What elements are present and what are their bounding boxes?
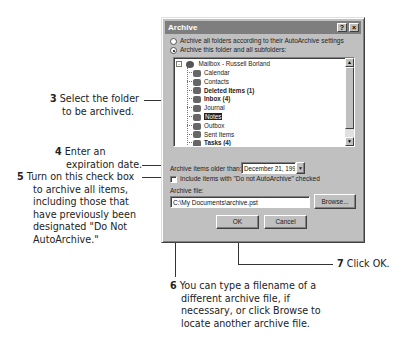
date-dropdown-button[interactable]: ▼ (296, 162, 305, 174)
tree-item[interactable]: Outbox (187, 121, 224, 130)
radio-archive-this-folder[interactable] (170, 47, 177, 54)
tree-item[interactable]: Sent Items (187, 130, 234, 139)
callout-7-line: Click OK. (347, 258, 390, 269)
tree-item[interactable]: Contacts (187, 77, 229, 86)
include-do-not-autoarchive-checkbox[interactable] (170, 176, 177, 183)
browse-button-label: Browse... (321, 198, 348, 205)
scroll-thumb[interactable] (345, 67, 354, 129)
archive-file-label: Archive file: (170, 187, 204, 194)
scroll-up-button[interactable]: ▲ (345, 58, 354, 67)
chevron-down-icon: ▼ (298, 165, 303, 171)
radio-archive-all[interactable] (170, 38, 177, 45)
callout-4-line: Enter an (65, 146, 106, 157)
tree-item-label: Calendar (204, 69, 230, 76)
cancel-button-label: Cancel (275, 218, 295, 225)
radio-archive-all-label[interactable]: Archive all folders according to their A… (180, 37, 344, 44)
tree-item-label: Contacts (204, 78, 229, 85)
older-than-label: Archive items older than: (170, 165, 242, 172)
ok-button-label: OK (233, 218, 242, 225)
tree-connector (187, 72, 192, 73)
deleted-items-folder-icon (193, 87, 201, 94)
tree-item-label: Tasks (4) (204, 139, 231, 146)
tree-root-label: Mailbox - Russell Borland (199, 60, 270, 67)
tree-item-label: Outbox (204, 122, 224, 129)
include-do-not-autoarchive-label[interactable]: Include items with "Do not AutoArchive" … (180, 175, 320, 182)
close-button[interactable]: × (349, 23, 359, 32)
callout-6-number: 6 (170, 280, 177, 291)
tree-item-label: Sent Items (204, 131, 234, 138)
callout-5-line: to archive all items, (17, 184, 136, 197)
tree-connector (187, 81, 192, 82)
callout-6-line: You can type a filename of a (180, 280, 316, 291)
callout-3-line: Select the folder (60, 93, 139, 104)
older-than-date-value: December 21, 1996 (244, 165, 296, 172)
tree-connector (187, 134, 192, 135)
journal-folder-icon (193, 105, 201, 112)
calendar-folder-icon (193, 70, 201, 77)
folder-tree[interactable]: - Mailbox - Russell Borland CalendarCont… (173, 57, 355, 147)
callout-5-number: 5 (17, 171, 24, 182)
archive-dialog: Archive ? × Archive all folders accordin… (161, 17, 365, 243)
browse-button[interactable]: Browse... (314, 194, 356, 209)
callout-6: 6 You can type a filename of a different… (170, 280, 321, 330)
callout-6-line: different archive file, if (170, 293, 321, 306)
callout-3-line: to be archived. (50, 106, 139, 119)
tree-item[interactable]: Inbox (4) (187, 94, 230, 103)
callout-4-number: 4 (55, 146, 62, 157)
tree-item[interactable]: Calendar (187, 68, 230, 77)
radio-archive-this-folder-label[interactable]: Archive this folder and all subfolders: (180, 46, 286, 53)
callout-4: 4 Enter an expiration date. (55, 146, 142, 171)
tasks-folder-icon (193, 140, 201, 147)
callout-4-line: expiration date. (55, 159, 142, 172)
tree-connector (187, 142, 192, 143)
ok-button[interactable]: OK (216, 215, 259, 229)
callout-5-line: AutoArchive." (17, 234, 136, 247)
tree-connector (187, 90, 192, 91)
mailbox-icon (186, 61, 194, 68)
archive-file-input[interactable]: C:\My Documents\archive.pst (170, 196, 310, 208)
tree-connector (187, 107, 192, 108)
tree-item[interactable]: Tasks (4) (187, 138, 231, 147)
collapse-icon[interactable]: - (176, 61, 182, 67)
tree-item-label: Journal (204, 104, 225, 111)
tree-item[interactable]: Journal (187, 103, 225, 112)
callout-5-line: including those that (17, 196, 136, 209)
contacts-folder-icon (193, 79, 201, 86)
tree-root[interactable]: - Mailbox - Russell Borland (176, 59, 270, 68)
outbox-folder-icon (193, 123, 201, 130)
callout-7: 7 Click OK. (337, 258, 390, 271)
close-icon: × (352, 24, 356, 31)
notes-folder-icon (193, 114, 201, 121)
dialog-title-bar: Archive ? × (165, 21, 361, 34)
callout-5-line: designated "Do Not (17, 221, 136, 234)
callout-7-leader-horizontal (238, 264, 333, 265)
sent-items-folder-icon (193, 131, 201, 138)
callout-5-line: have previously been (17, 209, 136, 222)
scroll-down-button[interactable]: ▼ (345, 137, 354, 146)
callout-6-line: locate another archive file. (170, 318, 321, 331)
callout-5: 5 Turn on this check box to archive all … (17, 171, 136, 246)
cancel-button[interactable]: Cancel (264, 215, 307, 229)
callout-7-number: 7 (337, 258, 344, 269)
callout-3: 3 Select the folder to be archived. (50, 93, 139, 118)
archive-file-value: C:\My Documents\archive.pst (173, 199, 258, 206)
tree-item-label: Inbox (4) (204, 95, 230, 102)
tree-item[interactable]: Notes (187, 112, 222, 121)
older-than-date-field[interactable]: December 21, 1996 (241, 162, 296, 174)
tree-item[interactable]: Deleted Items (1) (187, 86, 254, 95)
tree-connector (187, 98, 192, 99)
callout-3-number: 3 (50, 93, 57, 104)
tree-item-label: Notes (204, 113, 222, 120)
callout-5-line: Turn on this check box (27, 171, 134, 182)
help-icon: ? (340, 24, 344, 31)
tree-connector (187, 116, 192, 117)
inbox-folder-icon (193, 96, 201, 103)
tree-item-label: Deleted Items (1) (204, 87, 254, 94)
tree-connector (187, 125, 192, 126)
callout-6-line: necessary, or click Browse to (170, 305, 321, 318)
help-button[interactable]: ? (337, 23, 347, 32)
tree-scrollbar[interactable]: ▲ ▼ (345, 58, 354, 146)
dialog-title: Archive (168, 23, 197, 32)
